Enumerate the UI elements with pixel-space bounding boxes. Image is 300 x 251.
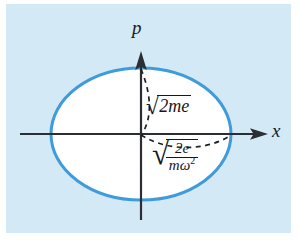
fraction-denominator: mω2	[166, 158, 198, 174]
momentum-amplitude-label: √2me	[146, 95, 191, 118]
fraction-denominator-exponent: 2	[190, 155, 195, 166]
radical-overbar: 2e mω2	[166, 139, 198, 174]
momentum-amplitude-radicand: 2me	[157, 95, 191, 115]
x-axis-label: x	[272, 121, 280, 140]
phase-space-diagram	[0, 0, 300, 251]
position-amplitude-label: √ 2e mω2	[152, 139, 198, 174]
position-amplitude-fraction: 2e mω2	[166, 141, 198, 174]
fraction-denominator-base: mω	[169, 157, 190, 173]
figure-root: p x √2me √ 2e mω2	[0, 0, 300, 251]
position-amplitude-radicand: 2e mω2	[166, 139, 198, 174]
p-axis-label: p	[132, 18, 142, 37]
